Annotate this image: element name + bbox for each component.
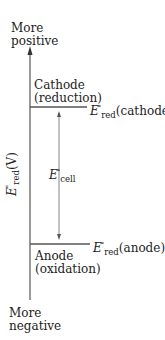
cathode-potential-subscript: red <box>101 110 116 120</box>
anode-process: (oxidation) <box>35 263 101 276</box>
axis-title: E°red(V) <box>5 149 21 199</box>
anode-potential-subscript: red <box>104 247 119 257</box>
axis-title-superscript: ° <box>5 185 13 189</box>
diagram-canvas <box>0 0 165 340</box>
anode-potential-text: (anode) <box>119 241 165 255</box>
arrow-up-icon <box>57 111 61 117</box>
more-positive-line2: positive <box>11 35 58 48</box>
cathode-potential-label: E°red(cathode) <box>90 102 165 122</box>
anode-potential-label: E°red(anode) <box>93 239 165 259</box>
cathode-potential-text: (cathode) <box>116 104 165 118</box>
axis-title-symbol: E <box>5 187 19 196</box>
axis-title-subscript: red <box>11 170 21 185</box>
more-positive-label: More positive <box>11 22 58 48</box>
axis-title-unit: (V) <box>5 152 19 170</box>
anode-label: Anode (oxidation) <box>35 250 101 276</box>
more-negative-line2: negative <box>9 320 61 333</box>
arrow-down-icon <box>57 234 61 240</box>
more-negative-label: More negative <box>9 307 61 333</box>
cell-potential-subscript: cell <box>60 174 75 184</box>
cell-potential-label: E°cell <box>49 166 76 186</box>
